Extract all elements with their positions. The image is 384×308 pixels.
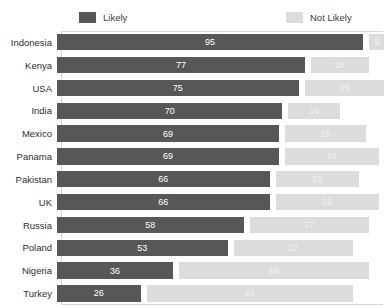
- legend-swatch-not-likely: [286, 12, 303, 23]
- category-label: India: [0, 105, 57, 116]
- legend-label-likely: Likely: [103, 12, 127, 23]
- bar-not-likely[interactable]: 37: [250, 217, 369, 233]
- bar-value-not-likely: 37: [304, 220, 314, 230]
- chart-row: Indonesia955: [0, 31, 384, 54]
- bar-likely[interactable]: 70: [57, 103, 282, 119]
- legend-label-not-likely: Not Likely: [310, 12, 352, 23]
- bar-value-likely: 26: [94, 288, 104, 298]
- bar-value-likely: 70: [165, 106, 175, 116]
- chart-row: UK6632: [0, 191, 384, 214]
- bar-likely[interactable]: 53: [57, 240, 228, 256]
- bar-not-likely[interactable]: 59: [179, 262, 369, 278]
- bar-value-likely: 66: [158, 197, 168, 207]
- chart-row: India7016: [0, 100, 384, 123]
- bar-value-not-likely: 18: [335, 60, 345, 70]
- chart-row: Panama6929: [0, 145, 384, 168]
- bar-value-likely: 77: [176, 60, 186, 70]
- bar-value-not-likely: 59: [269, 266, 279, 276]
- row-bars: 955: [57, 31, 384, 54]
- row-bars: 3659: [57, 259, 384, 282]
- legend-entry-likely[interactable]: Likely: [79, 10, 127, 24]
- bar-not-likely[interactable]: 26: [276, 171, 360, 187]
- bar-value-not-likely: 25: [340, 83, 350, 93]
- grouped-bar-chart: Likely Not Likely Indonesia955Kenya7718U…: [0, 0, 384, 308]
- chart-row: Turkey2664: [0, 282, 384, 305]
- bar-likely[interactable]: 95: [57, 34, 363, 50]
- row-bars: 7525: [57, 77, 384, 100]
- category-label: Indonesia: [0, 37, 57, 48]
- row-bars: 6626: [57, 168, 384, 191]
- legend-swatch-likely: [79, 12, 96, 23]
- category-label: Mexico: [0, 128, 57, 139]
- row-bars: 7718: [57, 54, 384, 77]
- bar-likely[interactable]: 26: [57, 285, 141, 301]
- bar-not-likely[interactable]: 16: [288, 103, 340, 119]
- bar-not-likely[interactable]: 37: [234, 240, 353, 256]
- bar-not-likely[interactable]: 64: [147, 285, 353, 301]
- category-label: Panama: [0, 151, 57, 162]
- bar-likely[interactable]: 69: [57, 148, 279, 164]
- bar-value-not-likely: 26: [312, 174, 322, 184]
- row-bars: 5837: [57, 214, 384, 237]
- bar-not-likely[interactable]: 25: [285, 125, 366, 141]
- bar-value-not-likely: 16: [309, 106, 319, 116]
- bar-value-likely: 58: [145, 220, 155, 230]
- bar-value-likely: 66: [158, 174, 168, 184]
- category-label: Turkey: [0, 288, 57, 299]
- bar-value-not-likely: 29: [327, 151, 337, 161]
- bar-not-likely[interactable]: 18: [311, 57, 369, 73]
- bar-value-not-likely: 5: [374, 37, 379, 47]
- bar-value-likely: 69: [163, 151, 173, 161]
- legend-entry-not-likely[interactable]: Not Likely: [286, 10, 352, 24]
- bar-likely[interactable]: 66: [57, 194, 270, 210]
- chart-row: Nigeria3659: [0, 259, 384, 282]
- row-bars: 2664: [57, 282, 384, 305]
- bar-not-likely[interactable]: 29: [285, 148, 378, 164]
- chart-row: Pakistan6626: [0, 168, 384, 191]
- chart-rows: Indonesia955Kenya7718USA7525India7016Mex…: [0, 31, 384, 305]
- row-bars: 6925: [57, 122, 384, 145]
- bar-not-likely[interactable]: 25: [305, 80, 384, 96]
- bar-value-not-likely: 25: [320, 129, 330, 139]
- bar-value-likely: 36: [110, 266, 120, 276]
- chart-legend: Likely Not Likely: [0, 9, 384, 29]
- bar-value-not-likely: 64: [245, 288, 255, 298]
- row-bars: 5337: [57, 237, 384, 260]
- row-bars: 6929: [57, 145, 384, 168]
- bar-likely[interactable]: 69: [57, 125, 279, 141]
- category-label: USA: [0, 83, 57, 94]
- bar-likely[interactable]: 58: [57, 217, 244, 233]
- category-label: Kenya: [0, 60, 57, 71]
- category-label: Pakistan: [0, 174, 57, 185]
- chart-row: Kenya7718: [0, 54, 384, 77]
- bar-value-likely: 95: [205, 37, 215, 47]
- category-label: Poland: [0, 242, 57, 253]
- chart-row: Mexico6925: [0, 122, 384, 145]
- row-bars: 6632: [57, 191, 384, 214]
- bar-value-likely: 69: [163, 129, 173, 139]
- row-bars: 7016: [57, 100, 384, 123]
- chart-row: Poland5337: [0, 237, 384, 260]
- bar-not-likely[interactable]: 32: [276, 194, 379, 210]
- chart-row: USA7525: [0, 77, 384, 100]
- bar-likely[interactable]: 77: [57, 57, 305, 73]
- bar-value-not-likely: 37: [288, 243, 298, 253]
- category-label: UK: [0, 197, 57, 208]
- category-label: Russia: [0, 220, 57, 231]
- bar-not-likely[interactable]: 5: [369, 34, 384, 50]
- bar-likely[interactable]: 75: [57, 80, 299, 96]
- bar-value-not-likely: 32: [322, 197, 332, 207]
- bar-likely[interactable]: 36: [57, 262, 173, 278]
- bar-value-likely: 75: [173, 83, 183, 93]
- chart-row: Russia5837: [0, 214, 384, 237]
- bar-likely[interactable]: 66: [57, 171, 270, 187]
- bar-value-likely: 53: [137, 243, 147, 253]
- category-label: Nigeria: [0, 265, 57, 276]
